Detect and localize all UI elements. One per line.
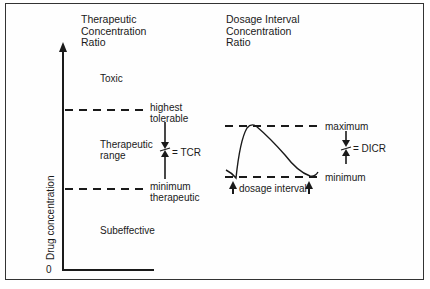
y-axis-arrow-icon [59, 42, 67, 52]
highest-tolerable-label: highest tolerable [150, 102, 188, 124]
minimum-therapeutic-label: minimum therapeutic [150, 181, 199, 203]
maximum-label: maximum [325, 121, 368, 132]
dosage-interval-label: dosage interval [239, 183, 307, 194]
tcr-arrows-icon [160, 122, 170, 179]
origin-label: 0 [46, 264, 52, 275]
concentration-curve [226, 125, 318, 178]
dicr-arrows-icon [341, 131, 351, 164]
right-title: Dosage Interval Concentration Ratio [226, 14, 300, 49]
left-title: Therapeutic Concentration Ratio [81, 14, 146, 49]
zone-toxic: Toxic [100, 73, 123, 84]
dose-arrow-start-icon [229, 181, 237, 189]
zone-therapeutic-range: Therapeutic range [100, 139, 153, 161]
minimum-label: minimum [325, 172, 366, 183]
dicr-label: = DICR [353, 143, 386, 154]
zone-subeffective: Subeffective [100, 225, 155, 236]
y-axis-label: Drug concentration [45, 176, 56, 261]
tcr-label: = TCR [172, 147, 201, 158]
